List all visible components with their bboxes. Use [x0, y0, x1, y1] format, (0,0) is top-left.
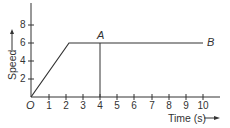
x-tick-labels: 1 2 3 4 5 6 7 8 9 10	[46, 100, 209, 111]
origin-label: O	[26, 99, 35, 111]
svg-text:4: 4	[20, 55, 26, 66]
svg-text:7: 7	[149, 100, 155, 111]
y-axis-arrow-icon	[10, 29, 14, 50]
svg-text:2: 2	[20, 73, 26, 84]
speed-time-chart: 2 4 6 8 1 2 3 4 5 6 7 8 9 10 O A B Speed	[0, 0, 230, 128]
svg-text:3: 3	[80, 100, 86, 111]
point-a-label: A	[96, 29, 104, 41]
svg-text:8: 8	[20, 19, 26, 30]
svg-text:9: 9	[183, 100, 189, 111]
svg-text:6: 6	[20, 37, 26, 48]
svg-text:10: 10	[197, 100, 209, 111]
svg-text:6: 6	[131, 100, 137, 111]
x-axis-arrow-icon	[204, 116, 220, 120]
y-tick-labels: 2 4 6 8	[20, 19, 26, 84]
svg-text:1: 1	[46, 100, 52, 111]
svg-text:8: 8	[166, 100, 172, 111]
svg-text:5: 5	[114, 100, 120, 111]
svg-text:2: 2	[63, 100, 69, 111]
point-b-label: B	[207, 36, 214, 48]
x-axis-title: Time (s)	[168, 112, 206, 124]
speed-line	[31, 43, 203, 97]
svg-text:4: 4	[97, 100, 103, 111]
y-axis-title: Speed	[6, 49, 18, 80]
